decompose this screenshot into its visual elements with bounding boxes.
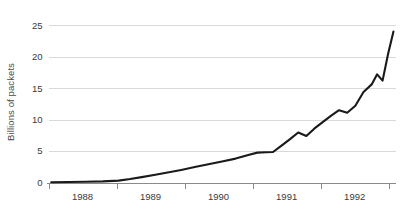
x-axis-ticks: [50, 184, 390, 189]
y-axis-tick-labels: 0 5 10 15 20 25: [32, 20, 43, 188]
x-tick-label-1989: 1989: [140, 191, 161, 202]
y-tick-label-25: 25: [32, 20, 43, 31]
y-axis-title-text: Billions of packets: [5, 63, 16, 141]
y-tick-label-10: 10: [32, 114, 43, 125]
x-axis-tick-labels: 1988 1989 1990 1991 1992: [72, 191, 365, 202]
gridlines: [49, 26, 396, 152]
y-axis-title: Billions of packets: [5, 63, 16, 141]
data-series-line-packets: [51, 32, 393, 183]
x-axis: 1988 1989 1990 1991 1992: [47, 184, 396, 202]
x-tick-label-1990: 1990: [208, 191, 229, 202]
x-tick-label-1988: 1988: [72, 191, 93, 202]
y-tick-label-20: 20: [32, 51, 43, 62]
line-chart: 0 5 10 15 20 25 1988 1989 1990 1991 1: [0, 0, 406, 219]
y-tick-label-15: 15: [32, 83, 43, 94]
x-tick-label-1992: 1992: [344, 191, 365, 202]
chart-container: 0 5 10 15 20 25 1988 1989 1990 1991 1: [0, 0, 406, 219]
y-tick-label-5: 5: [37, 145, 42, 156]
x-tick-label-1991: 1991: [276, 191, 297, 202]
y-tick-label-0: 0: [37, 177, 42, 188]
